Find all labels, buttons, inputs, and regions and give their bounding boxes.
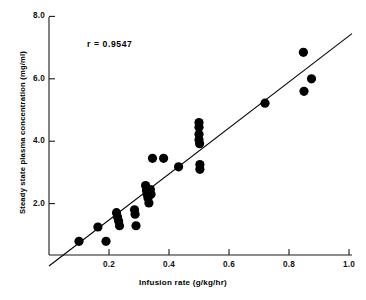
- data-point: [74, 237, 83, 246]
- data-point: [131, 210, 140, 219]
- data-point: [260, 99, 269, 108]
- data-points-group: [74, 48, 316, 246]
- data-point: [299, 87, 308, 96]
- x-tick-label: 0.4: [154, 260, 184, 269]
- data-point: [307, 74, 316, 83]
- x-axis-title: Infusion rate (g/kg/hr): [0, 278, 366, 287]
- y-tick-label: 8.0: [5, 11, 45, 20]
- data-point: [159, 154, 168, 163]
- y-tick-label: 4.0: [5, 136, 45, 145]
- y-tick-label: 6.0: [5, 74, 45, 83]
- correlation-annotation: r = 0.9547: [87, 39, 132, 49]
- plot-canvas: [0, 0, 366, 300]
- data-point: [148, 154, 157, 163]
- y-tick-label: 2.0: [5, 199, 45, 208]
- data-point: [144, 198, 153, 207]
- data-point: [115, 221, 124, 230]
- data-point: [195, 165, 204, 174]
- scatter-plot-figure: r = 0.9547 Steady state plasma concentra…: [0, 0, 366, 300]
- data-point: [146, 190, 155, 199]
- data-point: [174, 162, 183, 171]
- x-tick-label: 0.8: [274, 260, 304, 269]
- data-point: [195, 139, 204, 148]
- data-point: [93, 222, 102, 231]
- x-tick-label: 0.6: [214, 260, 244, 269]
- regression-line: [49, 34, 352, 266]
- data-point: [101, 237, 110, 246]
- data-point: [131, 221, 140, 230]
- regression-line-group: [49, 34, 352, 266]
- data-point: [299, 48, 308, 57]
- x-tick-label: 0.2: [94, 260, 124, 269]
- x-axis-ticks: [109, 249, 349, 255]
- x-tick-label: 1.0: [334, 260, 364, 269]
- y-axis-ticks: [49, 16, 55, 203]
